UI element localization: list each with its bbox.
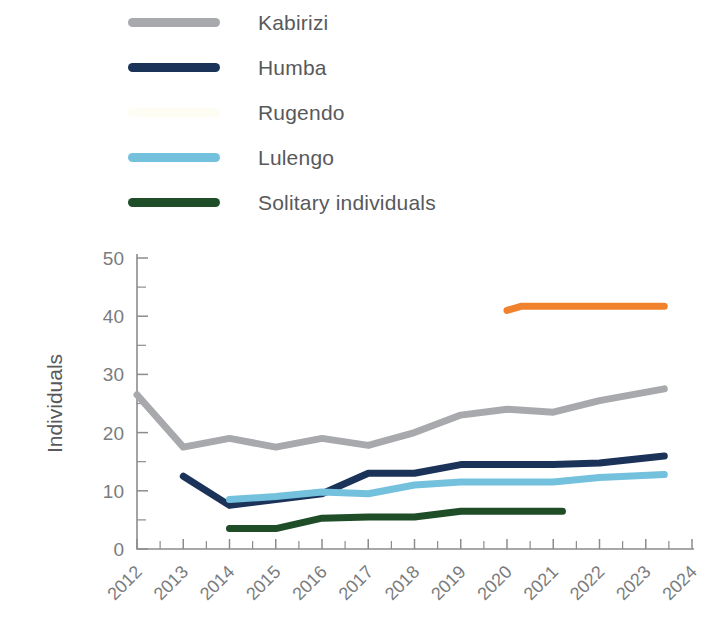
x-tick-label: 2012 — [103, 562, 145, 604]
x-tick-label: 2023 — [612, 562, 654, 604]
plot-area: 0102030405020122013201420152016201720182… — [0, 0, 708, 631]
series-line-rugendo — [507, 306, 664, 310]
series-line-lulengo — [230, 475, 665, 500]
y-tick-label: 20 — [103, 423, 124, 444]
x-tick-label: 2014 — [196, 562, 238, 604]
y-tick-label: 0 — [113, 539, 124, 560]
x-tick-label: 2020 — [473, 562, 515, 604]
y-tick-label: 50 — [103, 248, 124, 269]
chart-figure: Kabirizi Humba Rugendo Lulengo Solitary … — [0, 0, 708, 631]
series-line-solitary-individuals — [230, 511, 563, 528]
y-tick-label: 30 — [103, 364, 124, 385]
y-axis-title: Individuals — [43, 354, 66, 453]
x-tick-label: 2017 — [335, 562, 377, 604]
plot-svg: 0102030405020122013201420152016201720182… — [0, 0, 708, 631]
x-tick-label: 2016 — [288, 562, 330, 604]
series-layer — [137, 306, 664, 528]
y-tick-label: 40 — [103, 306, 124, 327]
x-tick-label: 2013 — [150, 562, 192, 604]
x-tick-label: 2021 — [520, 562, 562, 604]
x-tick-label: 2015 — [242, 562, 284, 604]
x-tick-label: 2019 — [427, 562, 469, 604]
x-tick-label: 2024 — [658, 562, 700, 604]
x-tick-label: 2022 — [566, 562, 608, 604]
axis-labels-layer: 0102030405020122013201420152016201720182… — [43, 248, 701, 604]
series-line-kabirizi — [137, 389, 664, 447]
y-tick-label: 10 — [103, 481, 124, 502]
x-tick-label: 2018 — [381, 562, 423, 604]
